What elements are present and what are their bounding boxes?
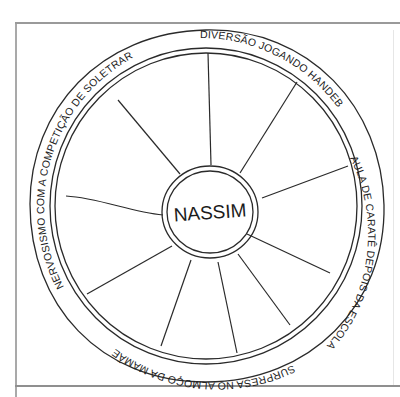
spoke-4 (247, 234, 330, 273)
spoke-10 (118, 100, 180, 174)
spoke-7 (161, 260, 191, 346)
ring-labels: DIVERSÃO JOGANDO HANDEBOL AULA DE CARATÊ… (0, 0, 378, 392)
spoke-1 (208, 53, 211, 165)
ring-label-bottom: SURPRESA NO ALMOÇO DA MAMÃE (109, 347, 297, 393)
spoke-9 (66, 196, 163, 215)
hub: NASSIM (162, 166, 258, 258)
hub-label: NASSIM (173, 199, 247, 225)
spoke-6 (218, 262, 237, 353)
ring-label-left: NERVOSISMO COM A COMPETIÇÃO DE SOLETRAR (34, 49, 135, 292)
ring-label-top-right: DIVERSÃO JOGANDO HANDEBOL (0, 0, 346, 109)
spoke-3 (262, 166, 348, 198)
ring-label-right: AULA DE CARATÊ DEPOIS DA ESCOLA (325, 154, 378, 353)
spoke-2 (240, 82, 297, 173)
feelings-wheel: NASSIM DIVERSÃO JOGANDO HANDEBOL AULA DE… (0, 0, 400, 397)
spoke-8 (87, 246, 172, 294)
spoke-5 (238, 254, 290, 325)
